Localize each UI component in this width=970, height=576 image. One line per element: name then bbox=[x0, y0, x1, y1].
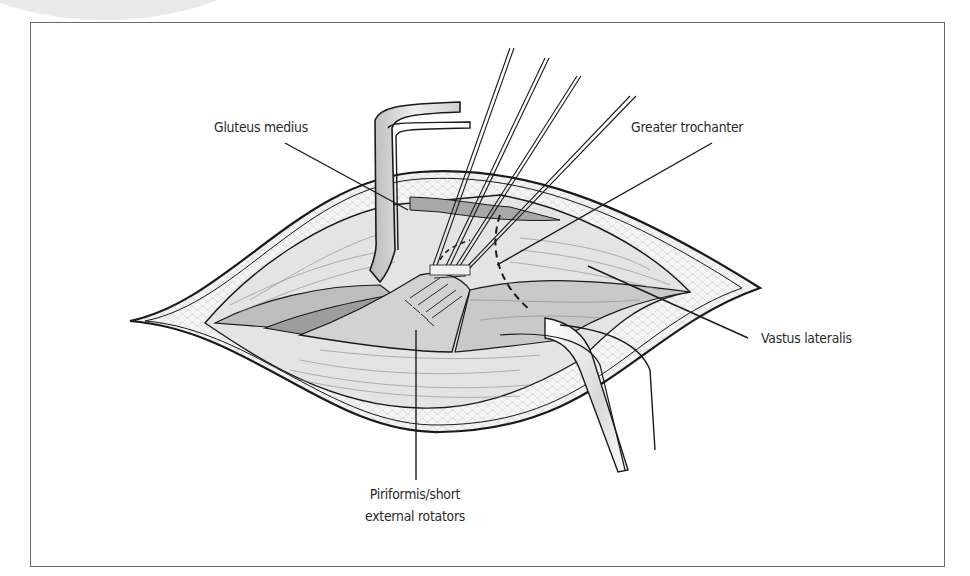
label-piriformis-line2: external rotators bbox=[346, 508, 484, 524]
label-vastus-lateralis: Vastus lateralis bbox=[761, 330, 852, 346]
label-greater-trochanter: Greater trochanter bbox=[631, 119, 743, 135]
label-piriformis-line1: Piriformis/short bbox=[346, 486, 484, 502]
surgical-illustration bbox=[0, 0, 970, 576]
label-gluteus-medius: Gluteus medius bbox=[214, 119, 308, 135]
